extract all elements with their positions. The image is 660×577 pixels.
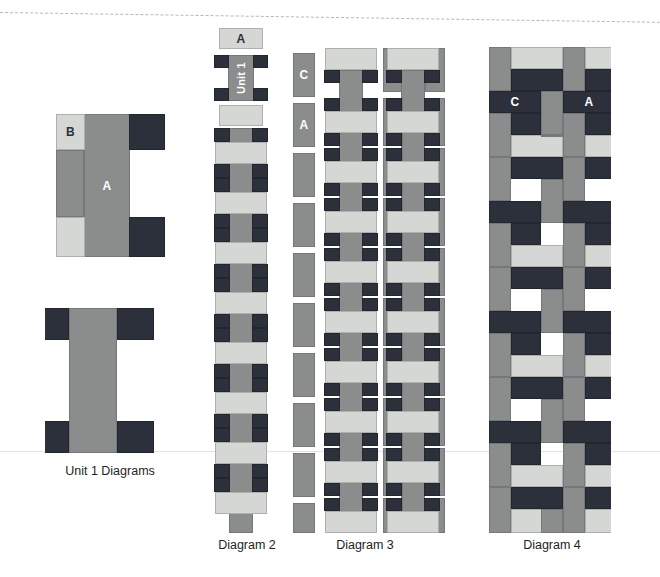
weave-tile xyxy=(585,157,611,179)
column-corner xyxy=(424,448,440,461)
column-corner xyxy=(386,233,402,246)
column-corner xyxy=(324,333,340,346)
legend-corner-tr xyxy=(253,55,268,68)
column-corner xyxy=(386,483,402,496)
paver-b-top: B xyxy=(56,114,85,150)
column-corner xyxy=(214,264,230,278)
legend-corner-tl xyxy=(214,55,229,68)
weave-tile xyxy=(563,267,585,311)
weave-tile xyxy=(585,223,611,245)
column-corner xyxy=(386,198,402,211)
column-corner xyxy=(252,178,268,192)
weave-tile xyxy=(585,69,611,91)
weave-tile xyxy=(563,223,585,267)
legend-label-a: A xyxy=(220,29,262,48)
column-crossbar xyxy=(325,511,377,533)
column-corner xyxy=(386,448,402,461)
column-corner xyxy=(386,98,402,111)
weave-tile xyxy=(511,69,563,91)
weave-tile xyxy=(511,245,563,267)
column-corner xyxy=(424,133,440,146)
column-crossbar xyxy=(387,261,439,283)
column-crossbar xyxy=(325,261,377,283)
caption-diagram4: Diagram 4 xyxy=(492,538,612,552)
column-corner xyxy=(362,148,378,161)
edge-tile xyxy=(293,303,315,347)
column-corner xyxy=(324,183,340,196)
column-corner xyxy=(324,98,340,111)
column-corner xyxy=(362,98,378,111)
column-crossbar xyxy=(325,411,377,433)
edge-tile xyxy=(293,453,315,497)
column-crossbar xyxy=(325,461,377,483)
column-corner xyxy=(386,248,402,261)
weave-tile xyxy=(563,377,585,421)
top-dashed-rule xyxy=(0,12,660,23)
column-crossbar xyxy=(325,211,377,233)
paver-corner-tr xyxy=(117,308,154,340)
column-crossbar xyxy=(325,161,377,183)
column-corner xyxy=(386,433,402,446)
column-corner xyxy=(252,164,268,178)
weave-tile xyxy=(511,377,563,399)
column-crossbar xyxy=(387,311,439,333)
weave-tile xyxy=(563,113,585,157)
weave-tile xyxy=(585,443,611,465)
weave-tile xyxy=(541,91,563,135)
weave-tile xyxy=(585,245,611,267)
column-corner xyxy=(362,498,378,511)
weave-tile xyxy=(563,311,611,333)
diagram3-panel: C A xyxy=(293,48,445,533)
column-corner xyxy=(424,333,440,346)
column-corner xyxy=(324,248,340,261)
legend-unit1-block: Unit 1 xyxy=(210,55,272,101)
column-crossbar xyxy=(215,392,267,414)
column-corner xyxy=(214,478,230,492)
column-corner xyxy=(386,183,402,196)
column-corner xyxy=(386,70,402,83)
column-corner xyxy=(324,133,340,146)
column-corner xyxy=(424,233,440,246)
column-corner xyxy=(324,70,340,83)
column-corner xyxy=(214,178,230,192)
column-corner xyxy=(424,248,440,261)
column-corner xyxy=(252,464,268,478)
column-corner xyxy=(362,383,378,396)
diagram2-panel: A Unit 1 xyxy=(210,28,272,533)
edge-tile xyxy=(293,253,315,297)
weave-tile xyxy=(511,135,563,157)
paver-a-main: A xyxy=(84,114,130,257)
column-crossbar xyxy=(387,161,439,183)
column-corner xyxy=(252,428,268,442)
edge-tile xyxy=(293,153,315,197)
weave-tile xyxy=(541,135,563,137)
weave-tile xyxy=(541,289,563,333)
column-corner xyxy=(252,228,268,242)
column-corner xyxy=(214,278,230,292)
weave-tile xyxy=(585,135,611,157)
weave-tile xyxy=(489,113,511,157)
weave-tile xyxy=(541,179,563,223)
column-corner xyxy=(214,128,230,142)
weave-tile xyxy=(585,113,611,135)
column-corner xyxy=(252,364,268,378)
weave-tile xyxy=(511,333,541,355)
weave-tile xyxy=(585,47,611,69)
column-crossbar xyxy=(215,292,267,314)
weave-tile xyxy=(541,399,563,443)
weave-tile xyxy=(585,487,611,509)
weave-tile xyxy=(563,201,611,223)
edge-label-a: A xyxy=(294,104,314,146)
column-corner xyxy=(424,498,440,511)
legend-label-unit1: Unit 1 xyxy=(229,56,253,100)
column-corner xyxy=(214,364,230,378)
paver-corner-tl xyxy=(45,308,69,340)
weave-tile xyxy=(585,333,611,355)
column-corner xyxy=(362,348,378,361)
weave-tile xyxy=(511,267,563,289)
column-corner xyxy=(424,283,440,296)
paver-label-b: B xyxy=(57,115,84,149)
column-corner xyxy=(386,133,402,146)
diagram-sheet: A B Unit 1 Diagrams A Unit 1 xyxy=(0,0,660,577)
column-corner xyxy=(214,164,230,178)
